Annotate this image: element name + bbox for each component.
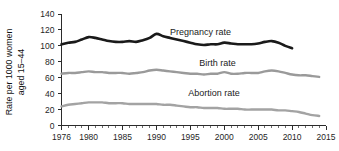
y-axis-tick-label: 140	[40, 9, 54, 19]
annotation-label-abortion-rate: Abortion rate	[188, 88, 240, 98]
series-annotations-group: Pregnancy rateBirth rateAbortion rate	[170, 27, 240, 98]
x-axis-tick-label: 2005	[249, 132, 268, 142]
x-axis-tick-label: 1980	[79, 132, 98, 142]
y-axis-tick-label: 60	[45, 73, 55, 83]
x-axis-tick-label: 2000	[215, 132, 234, 142]
y-axis-tick-label: 120	[40, 25, 54, 35]
x-axis-tick-label: 1976	[52, 132, 71, 142]
pregnancy-birth-abortion-rate-line-chart: Rate per 1000 women aged 15–44 020406080…	[0, 0, 339, 151]
x-axis-tick-label: 1990	[147, 132, 166, 142]
x-axis: 197619801985199019952000200520102015	[52, 126, 336, 142]
x-axis-tick-label: 1995	[181, 132, 200, 142]
y-axis-title-group: Rate per 1000 women aged 15–44	[4, 29, 26, 116]
data-series-group	[62, 34, 320, 116]
chart-figure: Rate per 1000 women aged 15–44 020406080…	[0, 0, 339, 151]
y-axis-tick-label: 20	[45, 105, 55, 115]
y-axis-tick-label: 40	[45, 89, 55, 99]
y-axis-tick-label: 0	[50, 121, 55, 131]
annotation-label-pregnancy-rate: Pregnancy rate	[170, 27, 231, 37]
series-line-birth-rate	[62, 70, 320, 77]
x-axis-tick-label: 1985	[113, 132, 132, 142]
y-axis-tick-label: 100	[40, 41, 54, 51]
series-line-abortion-rate	[62, 102, 320, 116]
y-axis-title-line2: aged 15–44	[16, 49, 26, 96]
x-axis-tick-label: 2015	[317, 132, 336, 142]
y-axis-tick-label: 80	[45, 57, 55, 67]
annotation-label-birth-rate: Birth rate	[199, 58, 236, 68]
y-axis: 020406080100120140	[40, 9, 61, 131]
x-axis-tick-label: 2010	[283, 132, 302, 142]
y-axis-title-line1: Rate per 1000 women	[4, 29, 14, 116]
